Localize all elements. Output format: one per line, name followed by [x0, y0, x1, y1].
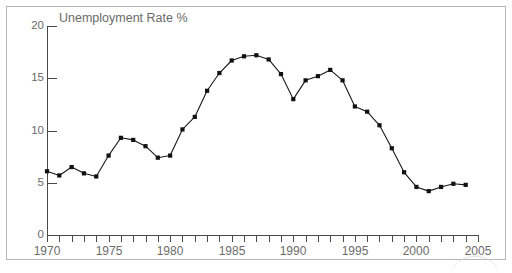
data-point-2004 — [464, 183, 468, 187]
data-point-1997 — [377, 123, 381, 127]
data-point-1984 — [217, 71, 221, 75]
data-point-1987 — [254, 53, 258, 57]
data-point-1974 — [94, 174, 98, 178]
data-point-1978 — [143, 144, 147, 148]
data-point-1979 — [156, 156, 160, 160]
data-point-1971 — [57, 173, 61, 177]
data-point-1994 — [340, 78, 344, 82]
data-point-1992 — [316, 74, 320, 78]
data-point-1985 — [230, 58, 234, 62]
data-point-2001 — [427, 189, 431, 193]
data-point-1991 — [304, 78, 308, 82]
data-point-1981 — [180, 127, 184, 131]
data-point-2000 — [414, 185, 418, 189]
data-point-1973 — [82, 171, 86, 175]
series-markers — [45, 53, 468, 193]
data-point-1980 — [168, 153, 172, 157]
data-point-1998 — [390, 146, 394, 150]
data-point-1976 — [119, 136, 123, 140]
data-point-1993 — [328, 68, 332, 72]
data-point-1995 — [353, 104, 357, 108]
data-point-1970 — [45, 169, 49, 173]
data-point-1990 — [291, 97, 295, 101]
data-point-1986 — [242, 54, 246, 58]
data-point-1996 — [365, 110, 369, 114]
data-point-1975 — [106, 153, 110, 157]
data-point-1983 — [205, 89, 209, 93]
data-point-2002 — [439, 185, 443, 189]
data-point-1989 — [279, 72, 283, 76]
data-point-2003 — [451, 182, 455, 186]
data-point-1988 — [267, 57, 271, 61]
data-point-1977 — [131, 138, 135, 142]
data-point-1999 — [402, 170, 406, 174]
data-point-1982 — [193, 115, 197, 119]
data-point-1972 — [70, 165, 74, 169]
